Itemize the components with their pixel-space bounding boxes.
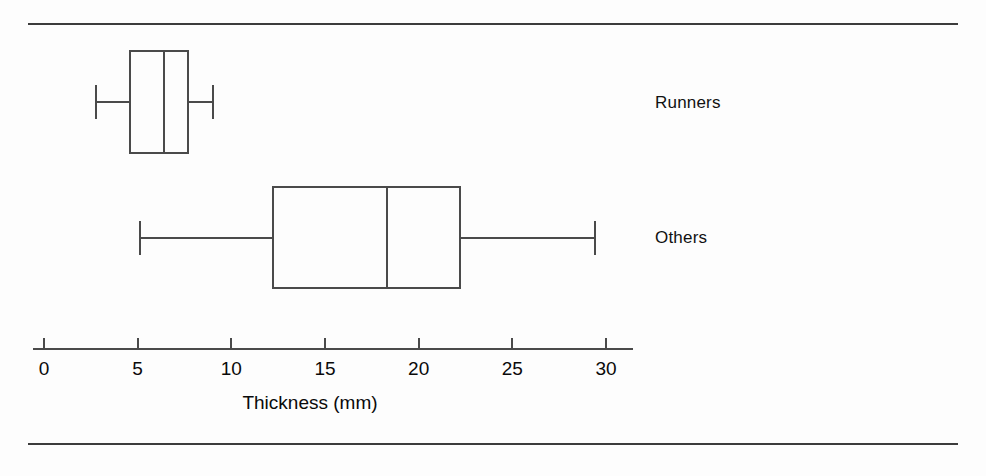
- box-plot-canvas: [0, 0, 986, 476]
- x-axis-tick-label: 20: [408, 358, 429, 380]
- x-axis-tick-label: 30: [595, 358, 616, 380]
- box-plot-others: [140, 187, 595, 288]
- box-iqr: [273, 187, 460, 288]
- x-axis-title: Thickness (mm): [242, 392, 377, 414]
- x-axis-tick-label: 25: [502, 358, 523, 380]
- boxes-group: [96, 51, 594, 288]
- series-label-others: Others: [655, 228, 707, 248]
- series-label-runners: Runners: [655, 93, 721, 113]
- box-plot-runners: [96, 51, 212, 153]
- x-axis-tick-label: 0: [39, 358, 50, 380]
- x-axis-group: [33, 338, 633, 349]
- x-axis-tick-label: 5: [132, 358, 143, 380]
- x-axis-tick-label: 15: [314, 358, 335, 380]
- x-axis-tick-label: 10: [221, 358, 242, 380]
- box-iqr: [130, 51, 188, 153]
- box-plot-figure: Runners Others 051015202530 Thickness (m…: [0, 0, 986, 476]
